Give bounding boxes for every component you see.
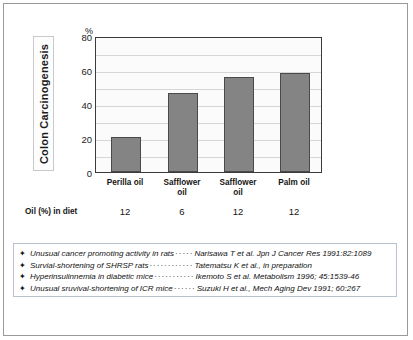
bar-palm-oil — [280, 73, 310, 172]
bar-safflower-oil-6 — [168, 93, 198, 172]
reference-citation-1: Tatematsu K et al., in preparation — [194, 260, 312, 271]
reference-text-3: Unusual sruvival-shortening of ICR mice — [30, 283, 173, 294]
bar-safflower-oil-12 — [224, 77, 254, 172]
bar-perilla-oil — [111, 137, 141, 172]
reference-dots-0: ····· — [174, 248, 194, 259]
category-label-3: Palm oil — [256, 178, 332, 188]
diet-row-label: Oil (%) in diet — [25, 207, 77, 216]
figure-page: Colon Carcinogenesis % 80 60 40 20 0 — [0, 0, 413, 340]
reference-citation-0: Narisawa T et al. Jpn J Cancer Res 1991:… — [194, 248, 371, 259]
y-tick-40: 40 — [68, 100, 92, 111]
diet-percent-row: Oil (%) in diet 12 6 12 12 — [0, 207, 405, 223]
reference-item: ✦ Hyperinsulinnemia in diabetic mice ···… — [19, 271, 391, 283]
reference-dots-1: ············ — [148, 260, 194, 271]
reference-dots-3: ······ — [173, 283, 197, 294]
star-icon: ✦ — [19, 283, 26, 294]
y-tick-20: 20 — [68, 134, 92, 145]
star-icon: ✦ — [19, 260, 26, 271]
star-icon: ✦ — [19, 248, 26, 259]
y-tick-0: 0 — [68, 168, 92, 179]
reference-text-2: Hyperinsulinnemia in diabetic mice — [30, 271, 153, 282]
category-label-1-line-0: Safflower — [164, 178, 201, 187]
category-label-1-line-1: oil — [177, 188, 187, 197]
category-label-0-line-0: Perilla oil — [107, 178, 143, 187]
star-icon: ✦ — [19, 271, 26, 282]
reference-item: ✦ Survial-shortening of SHRSP rats ·····… — [19, 260, 391, 272]
category-label-3-line-0: Palm oil — [278, 178, 309, 187]
y-tick-80: 80 — [68, 32, 92, 43]
y-tick-60: 60 — [68, 66, 92, 77]
x-axis-category-labels: Perilla oil Safflower oil Safflower oil … — [95, 178, 322, 206]
chart-region: Colon Carcinogenesis % 80 60 40 20 0 — [0, 0, 405, 240]
reference-item: ✦ Unusual sruvival-shortening of ICR mic… — [19, 283, 391, 295]
reference-text-0: Unusual cancer promoting activity in rat… — [30, 248, 174, 259]
y-axis-tick-labels: 80 60 40 20 0 — [66, 37, 92, 173]
reference-citation-2: Ikemoto S et al. Metabolism 1996; 45:153… — [195, 271, 359, 282]
bars-layer — [96, 38, 321, 172]
y-axis-title: Colon Carcinogenesis — [38, 43, 50, 163]
plot-area — [95, 37, 322, 173]
category-label-2-line-0: Safflower — [220, 178, 257, 187]
y-axis-title-box: Colon Carcinogenesis — [33, 36, 54, 171]
diet-value-3: 12 — [256, 206, 332, 217]
reference-citation-3: Suzuki H et al., Mech Aging Dev 1991; 60… — [197, 283, 360, 294]
reference-dots-2: ··········· — [153, 271, 195, 282]
references-box: ✦ Unusual cancer promoting activity in r… — [13, 243, 397, 297]
reference-text-1: Survial-shortening of SHRSP rats — [30, 260, 148, 271]
reference-item: ✦ Unusual cancer promoting activity in r… — [19, 248, 391, 260]
category-label-2-line-1: oil — [233, 188, 243, 197]
